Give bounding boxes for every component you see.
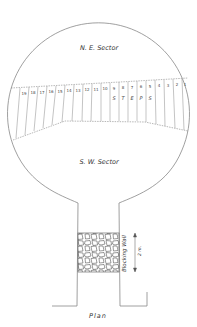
steps-top-edge (11, 78, 188, 88)
svg-text:T: T (121, 95, 125, 101)
svg-text:13: 13 (75, 88, 81, 93)
dimension-label: 2 m. (137, 246, 142, 256)
blocking-wall-label: Blocking Wall (121, 235, 128, 272)
svg-text:18: 18 (30, 90, 36, 95)
svg-text:12: 12 (84, 87, 90, 92)
steps-bottom-edge (13, 121, 188, 140)
svg-text:5: 5 (149, 84, 152, 89)
svg-text:1: 1 (184, 82, 187, 87)
svg-text:8: 8 (122, 85, 125, 90)
svg-text:15: 15 (57, 89, 63, 94)
svg-text:S: S (112, 95, 116, 101)
plan-caption: Plan (89, 312, 107, 320)
svg-text:4: 4 (158, 83, 161, 88)
sw-sector-label: S. W. Sector (79, 158, 120, 166)
svg-text:16: 16 (48, 89, 54, 94)
plan-diagram: 19 18 17 16 15 14 13 12 11 10 9 8 7 6 5 … (0, 0, 197, 327)
svg-text:P: P (139, 95, 142, 101)
svg-text:E: E (130, 95, 134, 101)
svg-text:9: 9 (113, 86, 116, 91)
svg-text:2: 2 (176, 82, 179, 87)
svg-text:3: 3 (167, 83, 170, 88)
svg-text:7: 7 (131, 85, 134, 90)
svg-text:19: 19 (21, 91, 27, 96)
svg-text:11: 11 (93, 87, 99, 92)
steps-label: S T E P S (112, 95, 152, 101)
blocking-wall (78, 233, 119, 272)
ne-sector-label: N. E. Sector (80, 44, 119, 52)
svg-text:S: S (148, 95, 152, 101)
svg-text:10: 10 (102, 86, 108, 91)
svg-text:14: 14 (66, 88, 72, 93)
passage-left-wall (52, 203, 78, 306)
svg-text:6: 6 (140, 84, 143, 89)
svg-text:17: 17 (39, 90, 45, 95)
